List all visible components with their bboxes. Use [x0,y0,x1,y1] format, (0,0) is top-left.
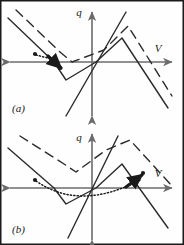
panel-a-operating-point-start [33,52,37,56]
qv-characteristic-figure: q V (a) q V (b) [0,0,184,245]
panel-b-operating-point-end [141,171,145,175]
panel-a-y-axis-label: q [76,6,82,18]
panel-b-operating-point-start [33,178,37,182]
panel-b-y-axis-label: q [76,131,82,143]
panel-a-label: (a) [12,102,25,115]
panel-a-operating-point-end [58,66,62,70]
panel-b-label: (b) [12,223,25,236]
figure-root: q V (a) q V (b) [0,0,184,245]
